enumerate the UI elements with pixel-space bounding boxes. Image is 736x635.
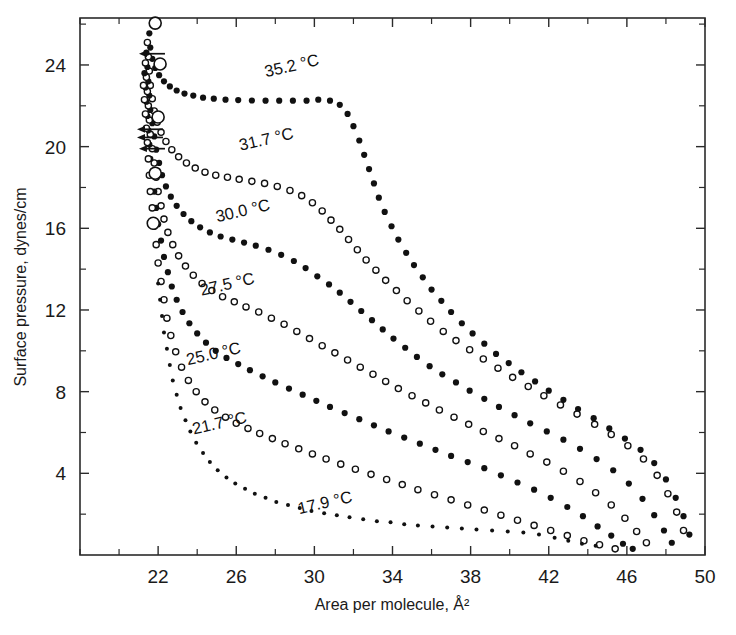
data-point — [170, 242, 176, 248]
data-point — [175, 393, 179, 397]
data-point — [212, 407, 218, 413]
data-point — [144, 39, 150, 45]
data-point — [608, 502, 614, 508]
data-point — [531, 487, 537, 493]
data-point — [344, 111, 350, 117]
data-point — [235, 361, 241, 367]
data-point — [439, 371, 445, 377]
data-point — [639, 496, 645, 502]
data-point — [544, 428, 550, 434]
data-point — [548, 495, 554, 501]
data-point — [299, 193, 305, 199]
data-point — [388, 223, 394, 229]
x-tick-label: 34 — [382, 566, 404, 587]
data-point — [224, 174, 230, 180]
surface-pressure-isotherm-chart: 2226303438424650 4812162024 35.2 °C31.7 … — [0, 0, 736, 635]
data-point — [286, 503, 290, 507]
data-point — [383, 277, 389, 283]
data-point — [337, 290, 343, 296]
data-point — [612, 546, 618, 552]
data-point — [469, 330, 475, 336]
pressure-arrow-head — [137, 126, 145, 133]
data-point — [281, 321, 287, 327]
data-point — [328, 217, 334, 223]
data-point — [332, 350, 338, 356]
data-point — [197, 224, 203, 230]
data-point — [518, 369, 524, 375]
data-point — [233, 482, 237, 486]
data-point — [282, 441, 288, 447]
data-point — [663, 476, 669, 482]
data-point — [467, 388, 473, 394]
data-point — [327, 404, 333, 410]
data-point — [566, 539, 570, 543]
data-point — [467, 347, 473, 353]
data-point — [363, 257, 369, 263]
data-point — [186, 320, 192, 326]
data-point — [176, 253, 182, 259]
data-point — [594, 523, 600, 529]
data-point — [190, 272, 196, 278]
data-point — [634, 528, 640, 534]
data-point — [245, 425, 251, 431]
data-point — [335, 513, 339, 517]
data-point — [165, 269, 171, 275]
data-point — [654, 472, 660, 478]
data-point — [149, 205, 155, 211]
transition-marker — [147, 217, 159, 229]
data-point — [358, 308, 364, 314]
data-point — [229, 236, 235, 242]
data-point — [176, 154, 182, 160]
data-point — [155, 260, 161, 266]
data-point — [432, 447, 438, 453]
data-point — [474, 527, 478, 531]
data-point — [416, 308, 422, 314]
data-point — [286, 385, 292, 391]
data-point — [459, 320, 465, 326]
data-point — [142, 60, 148, 66]
data-point — [404, 298, 410, 304]
data-point — [211, 96, 217, 102]
data-point — [319, 208, 325, 214]
data-point — [506, 360, 512, 366]
data-point — [361, 517, 365, 521]
data-point — [156, 72, 162, 78]
data-point — [591, 415, 597, 421]
data-point — [594, 544, 598, 548]
data-point — [527, 420, 533, 426]
data-point — [399, 481, 405, 487]
data-point — [376, 195, 382, 201]
data-point — [357, 364, 363, 370]
data-point — [165, 229, 171, 235]
data-point — [527, 451, 533, 457]
data-point — [174, 297, 180, 303]
data-point — [403, 250, 409, 256]
y-tick-label: 12 — [45, 300, 66, 321]
data-point — [385, 428, 391, 434]
data-point — [366, 166, 372, 172]
data-point — [402, 345, 408, 351]
data-point — [498, 472, 504, 478]
data-point — [142, 111, 148, 117]
data-point — [577, 446, 583, 452]
data-point — [427, 363, 433, 369]
pressure-arrow-head — [137, 134, 145, 141]
data-point — [521, 531, 525, 535]
data-point — [496, 436, 502, 442]
data-point — [371, 422, 377, 428]
figure-container: 2226303438424650 4812162024 35.2 °C31.7 … — [0, 0, 736, 635]
data-point — [147, 188, 153, 194]
data-point — [495, 365, 501, 371]
data-point — [156, 281, 160, 285]
data-point — [354, 247, 360, 253]
data-point — [168, 363, 172, 367]
data-point — [291, 258, 297, 264]
data-point — [453, 338, 459, 344]
data-point — [514, 517, 520, 523]
data-point — [300, 392, 306, 398]
data-point — [460, 526, 464, 530]
data-point — [338, 461, 344, 467]
data-point — [448, 497, 454, 503]
data-point — [179, 406, 183, 410]
data-point — [253, 243, 259, 249]
